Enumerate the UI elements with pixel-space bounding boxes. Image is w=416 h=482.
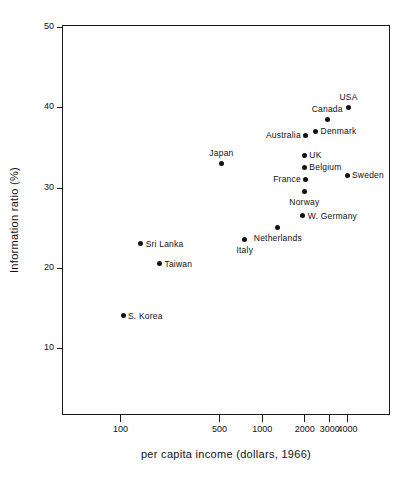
y-tick-label: 50 <box>44 21 54 31</box>
x-tick-500: 500 <box>219 415 220 422</box>
x-tick-1000: 1000 <box>262 415 263 422</box>
y-tick-label: 30 <box>44 182 54 192</box>
x-tick-100: 100 <box>120 415 121 422</box>
data-point <box>346 105 351 110</box>
data-point-label: Sri Lanka <box>146 239 184 249</box>
data-point-label: Italy <box>237 245 254 255</box>
y-tick-20: 20 <box>57 268 63 269</box>
x-axis-title: per capita income (dollars, 1966) <box>62 448 390 460</box>
data-point-label: Netherlands <box>254 233 302 243</box>
y-tick-10: 10 <box>57 348 63 349</box>
data-point-label: Denmark <box>321 126 357 136</box>
data-point-label: Norway <box>289 197 319 207</box>
y-tick-label: 10 <box>44 342 54 352</box>
data-point-label: Canada <box>312 104 343 114</box>
x-tick-label: 100 <box>113 424 128 434</box>
data-point-label: Sweden <box>352 170 384 180</box>
data-point-label: France <box>273 174 301 184</box>
y-tick-30: 30 <box>57 188 63 189</box>
data-point <box>219 161 224 166</box>
x-tick-label: 500 <box>212 424 227 434</box>
data-point <box>302 153 307 158</box>
data-point <box>313 129 318 134</box>
x-tick-label: 4000 <box>337 424 357 434</box>
data-point-label: Australia <box>266 130 301 140</box>
data-point-label: UK <box>309 150 321 160</box>
y-tick-label: 20 <box>44 262 54 272</box>
x-tick-3000: 3000 <box>329 415 330 422</box>
data-point <box>121 313 126 318</box>
y-tick-40: 40 <box>57 107 63 108</box>
data-point-label: Taiwan <box>164 259 192 269</box>
data-point-label: USA <box>339 92 357 102</box>
scatter-plot-figure: Information ratio (%) 1020304050 1005001… <box>0 0 416 482</box>
data-point-label: Japan <box>209 148 233 158</box>
data-point <box>302 189 307 194</box>
data-point <box>302 165 307 170</box>
data-point <box>345 173 350 178</box>
x-tick-label: 2000 <box>295 424 315 434</box>
y-tick-50: 50 <box>57 27 63 28</box>
x-tick-2000: 2000 <box>304 415 305 422</box>
x-tick-4000: 4000 <box>347 415 348 422</box>
data-point-label: Belgium <box>309 162 341 172</box>
x-tick-label: 1000 <box>252 424 272 434</box>
data-point-label: S. Korea <box>128 311 163 321</box>
y-axis-title: Information ratio (%) <box>8 25 30 415</box>
data-point <box>325 117 330 122</box>
data-point-label: W. Germany <box>308 211 357 221</box>
y-tick-label: 40 <box>44 101 54 111</box>
